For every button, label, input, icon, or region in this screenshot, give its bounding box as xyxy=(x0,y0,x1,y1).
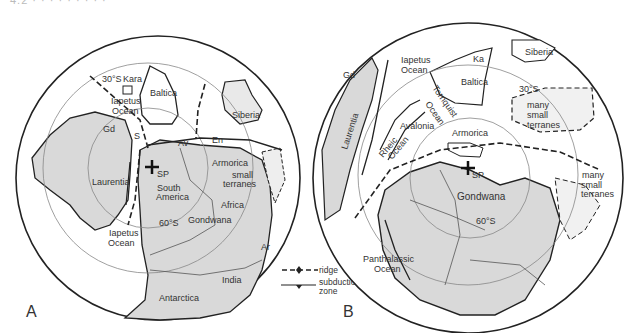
label-60s-a: 60°S xyxy=(159,218,179,228)
label-antarctica: Antarctica xyxy=(159,293,199,303)
label-ocean-b: Ocean xyxy=(401,65,428,75)
label-siberia-b: Siberia xyxy=(525,47,553,57)
label-small-b: small xyxy=(527,110,548,120)
label-av: Av xyxy=(178,138,189,148)
label-60s-b: 60°S xyxy=(476,216,496,226)
legend-zone: zone xyxy=(319,286,338,296)
label-siberia-a: Siberia xyxy=(232,110,260,120)
label-avalonia: Avalonia xyxy=(400,121,434,131)
label-terranes-b: terranes xyxy=(527,120,561,130)
label-gd-b: Gd xyxy=(343,70,355,80)
label-india: India xyxy=(222,275,242,285)
legend-ridge: ridge xyxy=(319,265,338,275)
paleogeographic-maps: 30°S Kara Baltica Iapetus Ocean Siberia … xyxy=(0,0,626,333)
map-b xyxy=(313,23,623,333)
label-baltica-b: Baltica xyxy=(461,77,488,87)
label-kara: Kara xyxy=(123,74,142,84)
label-sp-b: SP xyxy=(472,170,484,180)
label-gd-a: Gd xyxy=(103,124,115,134)
label-many-a: many xyxy=(527,100,550,110)
label-america: America xyxy=(156,192,189,202)
label-gondwana-a: Gondwana xyxy=(188,215,232,225)
label-ocean-a2: Ocean xyxy=(108,238,135,248)
label-terranes-a: terranes xyxy=(223,179,257,189)
label-many-b: many xyxy=(582,170,605,180)
label-iapetus-a1: Iapetus xyxy=(111,96,141,106)
label-armorica-a: Armorica xyxy=(212,158,248,168)
label-panthalassic-ocean: Ocean xyxy=(374,264,401,274)
label-ar: Ar xyxy=(261,242,270,252)
label-gondwana-b: Gondwana xyxy=(457,191,506,202)
label-en: En xyxy=(212,135,223,145)
label-armorica-b: Armorica xyxy=(452,128,488,138)
label-panthalassic: Panthalassic xyxy=(363,254,415,264)
label-africa: Africa xyxy=(221,200,244,210)
panel-letter-a: A xyxy=(26,303,37,321)
label-baltica-a: Baltica xyxy=(150,88,177,98)
label-ka: Ka xyxy=(473,54,484,64)
label-30s-a: 30°S xyxy=(102,74,122,84)
label-terranes-b2: terranes xyxy=(581,189,615,199)
label-sp-a: SP xyxy=(157,169,169,179)
label-s: S xyxy=(134,131,140,141)
label-iapetus-a2: Iapetus xyxy=(109,228,139,238)
label-iapetus-b: Iapetus xyxy=(401,55,431,65)
label-ocean-a1: Ocean xyxy=(112,106,139,116)
label-30s-b: 30°S xyxy=(519,84,539,94)
panel-letter-b: B xyxy=(343,303,354,321)
label-laurentia-a: Laurentia xyxy=(92,177,130,187)
